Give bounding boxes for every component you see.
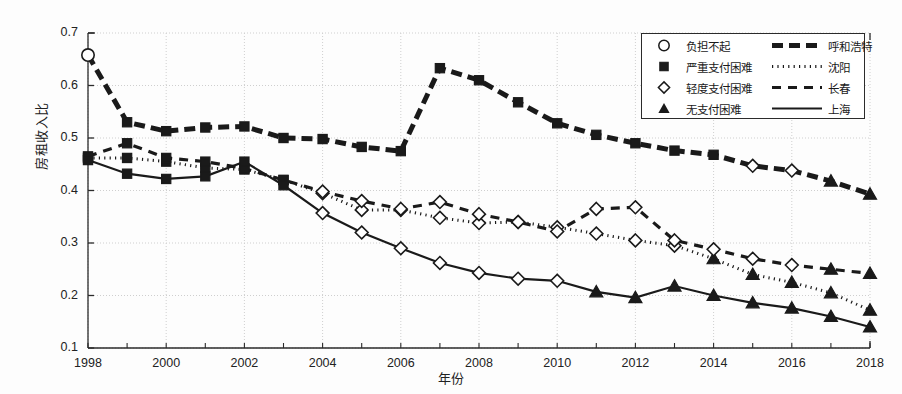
data-point-square — [201, 172, 210, 181]
data-point-square — [514, 98, 523, 107]
x-tick-label: 2002 — [221, 356, 267, 370]
data-point-square — [709, 150, 718, 159]
x-tick-label: 2006 — [378, 356, 424, 370]
legend-row[interactable]: 轻度支付困难长春 — [642, 78, 864, 97]
legend-marker-label: 轻度支付困难 — [686, 80, 752, 96]
legend-line-dashed-icon — [770, 78, 824, 97]
series-长春 — [83, 139, 876, 279]
legend-row[interactable]: 严重支付困难沈阳 — [642, 57, 864, 76]
data-point-diamond — [434, 257, 447, 270]
legend-marker-symbol — [642, 57, 686, 76]
data-point-square — [123, 169, 132, 178]
x-tick-label: 2008 — [456, 356, 502, 370]
data-point-diamond — [473, 208, 486, 221]
data-point-square — [670, 146, 679, 155]
x-tick-label: 2010 — [534, 356, 580, 370]
data-point-square — [631, 139, 640, 148]
data-point-square — [357, 142, 366, 151]
data-point-diamond — [394, 242, 407, 255]
legend-line-symbol — [770, 57, 826, 76]
data-point-square — [201, 157, 210, 166]
data-point-diamond — [355, 195, 368, 208]
data-point-square — [162, 174, 171, 183]
legend-marker-symbol — [642, 99, 686, 118]
y-tick-label: 0.2 — [38, 288, 78, 302]
data-point-square — [435, 64, 444, 73]
legend-marker-label: 无支付困难 — [686, 101, 741, 117]
legend-series-label: 呼和浩特 — [828, 38, 872, 54]
data-point-square — [474, 76, 483, 85]
data-point-diamond — [785, 164, 798, 177]
figure-chart-rent-income-ratio: 房租收入比 年份 0.10.20.30.40.50.60.7 199820002… — [0, 0, 902, 394]
data-point-square — [318, 134, 327, 143]
data-point-circle — [82, 49, 94, 61]
series-上海 — [83, 155, 876, 332]
data-point-square — [396, 147, 405, 156]
data-point-square — [240, 157, 249, 166]
legend-line-solid-icon — [770, 99, 824, 118]
x-tick-label: 1998 — [65, 356, 111, 370]
legend-line-symbol — [770, 99, 826, 118]
legend-diamond-icon — [642, 78, 686, 97]
legend-row[interactable]: 无支付困难上海 — [642, 99, 864, 118]
legend-line-symbol — [770, 78, 826, 97]
data-point-diamond — [355, 226, 368, 239]
legend-line-symbol — [770, 36, 826, 55]
legend-series-label: 长春 — [828, 80, 850, 96]
data-point-diamond — [629, 234, 642, 247]
data-point-square — [162, 127, 171, 136]
legend-line-thick-dashed-icon — [770, 36, 824, 55]
y-tick-label: 0.1 — [38, 340, 78, 354]
data-point-square — [279, 133, 288, 142]
legend-marker-label: 负担不起 — [686, 38, 730, 54]
y-axis-label: 房租收入比 — [31, 150, 50, 170]
data-point-diamond — [551, 274, 564, 287]
legend-marker-symbol — [642, 36, 686, 55]
y-tick-label: 0.7 — [38, 25, 78, 39]
data-point-diamond — [434, 196, 447, 209]
data-point-triangle — [668, 280, 681, 291]
data-point-square — [240, 122, 249, 131]
data-point-square — [83, 155, 92, 164]
y-tick-label: 0.6 — [38, 78, 78, 92]
data-point-diamond — [746, 159, 759, 172]
data-point-square — [553, 119, 562, 128]
y-tick-label: 0.3 — [38, 235, 78, 249]
data-point-square — [162, 153, 171, 162]
legend-series-label: 沈阳 — [828, 59, 850, 75]
data-point-triangle — [863, 267, 876, 278]
data-point-diamond — [629, 201, 642, 214]
data-point-diamond — [746, 252, 759, 265]
x-tick-label: 2004 — [300, 356, 346, 370]
y-tick-label: 0.4 — [38, 183, 78, 197]
x-tick-label: 2014 — [691, 356, 737, 370]
legend-line-dotted-icon — [770, 57, 824, 76]
x-tick-label: 2018 — [847, 356, 893, 370]
legend-circle-icon — [642, 36, 686, 55]
legend-series-label: 上海 — [828, 101, 850, 117]
y-tick-label: 0.5 — [38, 130, 78, 144]
x-tick-label: 2012 — [612, 356, 658, 370]
legend-box: 负担不起呼和浩特严重支付困难沈阳轻度支付困难长春无支付困难上海 — [641, 33, 865, 119]
legend-marker-symbol — [642, 78, 686, 97]
data-point-diamond — [590, 202, 603, 215]
data-point-diamond — [785, 259, 798, 272]
x-tick-label: 2000 — [143, 356, 189, 370]
x-axis-label: 年份 — [0, 368, 902, 387]
legend-row[interactable]: 负担不起呼和浩特 — [642, 36, 864, 55]
data-point-square — [592, 130, 601, 139]
data-point-diamond — [473, 267, 486, 280]
x-tick-label: 2016 — [769, 356, 815, 370]
data-point-square — [201, 123, 210, 132]
data-point-triangle — [785, 276, 798, 287]
data-point-diamond — [434, 211, 447, 224]
data-point-square — [123, 118, 132, 127]
legend-marker-label: 严重支付困难 — [686, 59, 752, 75]
data-point-diamond — [512, 272, 525, 285]
data-point-square — [123, 139, 132, 148]
data-point-diamond — [394, 202, 407, 215]
legend-square-icon — [642, 57, 686, 76]
data-point-diamond — [590, 227, 603, 240]
data-point-square — [123, 153, 132, 162]
data-point-diamond — [707, 243, 720, 256]
